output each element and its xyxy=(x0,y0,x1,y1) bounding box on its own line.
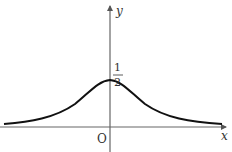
peak-numerator: 1 xyxy=(114,61,121,74)
peak-denominator: 2 xyxy=(114,76,121,89)
y-axis-label: y xyxy=(115,4,123,18)
curve xyxy=(4,80,222,124)
origin-label: O xyxy=(97,132,107,146)
x-axis-label: x xyxy=(221,129,228,143)
function-graph: y x O 1 2 xyxy=(0,0,232,152)
